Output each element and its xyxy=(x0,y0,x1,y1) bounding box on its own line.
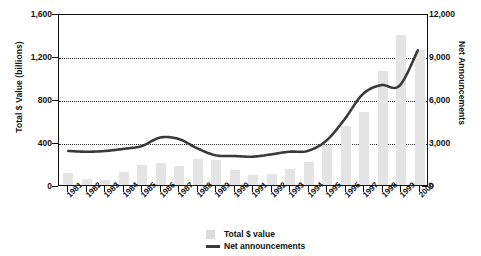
legend-label-total-dollar-value: Total $ value xyxy=(224,229,275,239)
legend-line-swatch-icon xyxy=(206,245,220,248)
chart-figure: Total $ Value (billions) Net Announcemen… xyxy=(0,0,481,256)
plot-area xyxy=(58,14,428,186)
y-axis-left-tick-label: 400 xyxy=(38,138,52,148)
y-axis-right: 03,0006,0009,00012,000 xyxy=(429,0,477,256)
y-axis-right-tick-label: 9,000 xyxy=(429,52,450,62)
chart-legend: Total $ value Net announcements xyxy=(206,228,386,252)
y-axis-right-tick-label: 6,000 xyxy=(429,95,450,105)
legend-label-net-announcements: Net announcements xyxy=(224,241,305,251)
line-series-net-announcements xyxy=(59,15,427,185)
y-axis-right-tick-label: 12,000 xyxy=(429,9,455,19)
y-axis-left: 04008001,2001,600 xyxy=(0,0,52,256)
legend-item-net-announcements: Net announcements xyxy=(206,240,386,252)
legend-item-total-dollar-value: Total $ value xyxy=(206,228,386,240)
y-axis-right-tick-label: 3,000 xyxy=(429,138,450,148)
legend-bar-swatch-icon xyxy=(206,230,215,239)
y-axis-left-tick-label: 1,600 xyxy=(31,9,52,19)
y-axis-left-tick-label: 800 xyxy=(38,95,52,105)
x-axis-labels: 1981198219831984198519861987198819891990… xyxy=(58,193,428,227)
y-axis-left-tick-label: 1,200 xyxy=(31,52,52,62)
